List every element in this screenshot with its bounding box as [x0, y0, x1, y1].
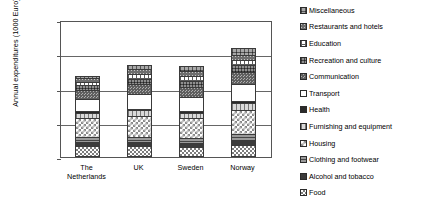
bar-uk[interactable]: [127, 65, 152, 157]
bar-segment[interactable]: [75, 90, 100, 99]
legend-label: Housing: [309, 139, 335, 148]
legend-item[interactable]: Restaurants and hotels: [300, 19, 426, 36]
bar-segment[interactable]: [231, 48, 256, 55]
bar-segment[interactable]: [75, 146, 100, 157]
legend-item[interactable]: Communication: [300, 68, 426, 85]
legend-swatch-icon: [300, 57, 307, 64]
bar-norway[interactable]: [231, 48, 256, 157]
legend-item[interactable]: Alcohol and tobacco: [300, 168, 426, 185]
legend-label: Communication: [309, 72, 359, 81]
bar-segment[interactable]: [127, 94, 152, 108]
legend-item[interactable]: Health: [300, 102, 426, 119]
legend-item[interactable]: Clothing and footwear: [300, 151, 426, 168]
legend-label: Miscellaneous: [309, 6, 355, 15]
x-tick-label-line: Norway: [206, 163, 280, 172]
legend-label: Recreation and culture: [309, 56, 381, 65]
legend-item[interactable]: Transport: [300, 85, 426, 102]
bar-segment[interactable]: [127, 116, 152, 137]
bar-segment[interactable]: [231, 103, 256, 110]
bar-segment[interactable]: [231, 65, 256, 72]
y-axis-title: Annual expenditures (1000 Euro): [11, 0, 20, 128]
legend-label: Education: [309, 39, 341, 48]
bar-segment[interactable]: [127, 146, 152, 157]
legend-swatch-icon: [300, 123, 307, 130]
bar-segment[interactable]: [179, 97, 204, 111]
legend-item[interactable]: Furnishing and equipment: [300, 118, 426, 135]
legend-item[interactable]: Recreation and culture: [300, 52, 426, 69]
legend-item[interactable]: Housing: [300, 135, 426, 152]
legend-label: Transport: [309, 89, 340, 98]
bar-segment[interactable]: [127, 84, 152, 94]
chart-figure: Annual expenditures (1000 Euro) 01020304…: [0, 0, 426, 204]
legend-item[interactable]: Miscellaneous: [300, 2, 426, 19]
legend-label: Furnishing and equipment: [309, 122, 392, 131]
y-tick-mark: [57, 159, 61, 160]
y-tick-mark: [57, 22, 61, 23]
bar-segment[interactable]: [75, 118, 100, 137]
legend-swatch-icon: [300, 106, 307, 113]
legend-swatch-icon: [300, 140, 307, 147]
bar-sweden[interactable]: [179, 66, 204, 157]
legend-label: Health: [309, 105, 330, 114]
x-tick-label-line: Netherlands: [50, 172, 124, 181]
legend-item[interactable]: Education: [300, 35, 426, 52]
bar-segment[interactable]: [179, 147, 204, 157]
legend-swatch-icon: [300, 173, 307, 180]
legend-label: Clothing and footwear: [309, 155, 379, 164]
bar-the-netherlands[interactable]: [75, 76, 100, 157]
bar-segment[interactable]: [231, 72, 256, 83]
bar-segment[interactable]: [179, 118, 204, 137]
bar-segment[interactable]: [179, 87, 204, 97]
legend-label: Restaurants and hotels: [309, 22, 383, 31]
legend-label: Alcohol and tobacco: [309, 172, 374, 181]
legend-swatch-icon: [300, 73, 307, 80]
plot-area: [60, 21, 272, 158]
legend-swatch-icon: [300, 40, 307, 47]
legend-item[interactable]: Food: [300, 185, 426, 202]
legend-swatch-icon: [300, 189, 307, 196]
bar-segment[interactable]: [231, 145, 256, 157]
legend-swatch-icon: [300, 23, 307, 30]
legend-label: Food: [309, 188, 325, 197]
legend-swatch-icon: [300, 156, 307, 163]
bar-segment[interactable]: [231, 84, 256, 101]
bar-segment[interactable]: [231, 110, 256, 134]
legend-swatch-icon: [300, 7, 307, 14]
chart-legend: MiscellaneousRestaurants and hotelsEduca…: [300, 2, 426, 201]
x-tick-label: Norway: [206, 163, 280, 172]
bar-segment[interactable]: [75, 99, 100, 111]
legend-swatch-icon: [300, 90, 307, 97]
